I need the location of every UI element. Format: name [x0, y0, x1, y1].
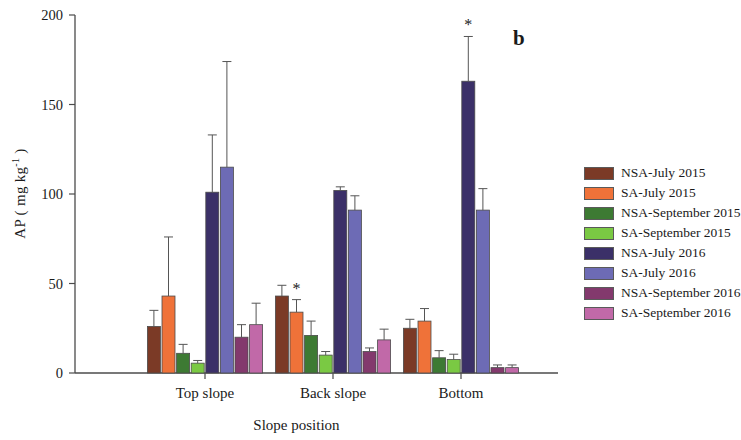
y-tick-label: 150: [23, 96, 63, 113]
bar-back-slope-sa-september-2015: [319, 355, 332, 373]
legend-item: SA-September 2016: [584, 303, 741, 323]
y-tick-label: 50: [23, 275, 63, 292]
legend-swatch-icon: [584, 247, 614, 260]
y-tick-label: 100: [23, 186, 63, 203]
bar-top-slope-sa-july-2016: [220, 167, 233, 373]
bar-back-slope-sa-july-2015: [290, 312, 303, 373]
legend-label: SA-July 2016: [621, 265, 696, 281]
legend-swatch-icon: [584, 207, 614, 220]
x-tick-label: Top slope: [176, 385, 235, 402]
bar-back-slope-sa-september-2016: [378, 340, 391, 373]
bar-back-slope-nsa-september-2015: [305, 335, 318, 373]
legend-swatch-icon: [584, 287, 614, 300]
bar-bottom-nsa-july-2016: [462, 81, 475, 373]
legend-swatch-icon: [584, 227, 614, 240]
legend: NSA-July 2015SA-July 2015NSA-September 2…: [584, 163, 741, 323]
x-axis-title: Slope position: [197, 417, 397, 434]
legend-swatch-icon: [584, 187, 614, 200]
legend-swatch-icon: [584, 307, 614, 320]
legend-label: SA-September 2015: [621, 225, 731, 241]
legend-item: SA-July 2015: [584, 183, 741, 203]
bar-bottom-sa-july-2015: [418, 321, 431, 373]
bar-top-slope-nsa-july-2015: [147, 326, 160, 373]
x-tick-label: Back slope: [300, 385, 366, 402]
legend-label: NSA-July 2016: [621, 245, 705, 261]
legend-item: NSA-September 2015: [584, 203, 741, 223]
panel-letter: b: [513, 26, 525, 51]
bar-top-slope-sa-july-2015: [162, 296, 175, 373]
bar-bottom-sa-september-2016: [506, 368, 519, 373]
bar-top-slope-sa-september-2016: [250, 325, 263, 373]
y-tick-label: 0: [23, 365, 63, 382]
bar-back-slope-sa-july-2016: [348, 210, 361, 373]
significance-asterisk: *: [293, 281, 301, 297]
y-axis-title: AP ( mg kg-1 ): [10, 114, 29, 274]
bar-top-slope-nsa-september-2015: [177, 353, 190, 373]
bar-top-slope-sa-september-2015: [191, 363, 204, 373]
legend-item: NSA-September 2016: [584, 283, 741, 303]
legend-item: NSA-July 2015: [584, 163, 741, 183]
legend-swatch-icon: [584, 167, 614, 180]
legend-item: SA-September 2015: [584, 223, 741, 243]
legend-label: NSA-July 2015: [621, 165, 705, 181]
y-tick-label: 200: [23, 7, 63, 24]
bar-top-slope-nsa-july-2016: [206, 192, 219, 373]
bar-bottom-sa-september-2015: [447, 360, 460, 373]
legend-item: SA-July 2016: [584, 263, 741, 283]
legend-label: NSA-September 2016: [621, 285, 741, 301]
bar-bottom-nsa-july-2015: [403, 328, 416, 373]
bar-top-slope-nsa-september-2016: [235, 337, 248, 373]
bar-bottom-nsa-september-2015: [433, 358, 446, 373]
legend-swatch-icon: [584, 267, 614, 280]
bar-bottom-nsa-september-2016: [491, 368, 504, 373]
bar-back-slope-nsa-september-2016: [363, 352, 376, 373]
bar-back-slope-nsa-july-2015: [275, 296, 288, 373]
legend-label: SA-July 2015: [621, 185, 696, 201]
legend-label: NSA-September 2015: [621, 205, 741, 221]
bar-back-slope-nsa-july-2016: [334, 190, 347, 373]
bar-bottom-sa-july-2016: [476, 210, 489, 373]
significance-asterisk: *: [464, 17, 472, 33]
x-tick-label: Bottom: [438, 385, 483, 402]
legend-label: SA-September 2016: [621, 305, 731, 321]
legend-item: NSA-July 2016: [584, 243, 741, 263]
